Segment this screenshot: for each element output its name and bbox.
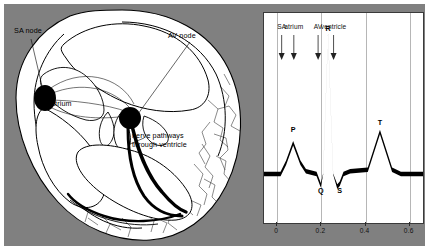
label-nerve-line2: through ventricle (132, 140, 187, 149)
label-atrium: atrium (51, 99, 72, 108)
heart-diagram-panel: SA node AV node atrium nerve pathways th… (4, 4, 252, 246)
heart-diagram-illustration (4, 4, 252, 246)
phase-arrow-head-3 (331, 53, 337, 60)
wave-label-q: Q (318, 186, 324, 195)
wave-label-s: S (337, 186, 342, 195)
phase-label-atrium: atrium (284, 23, 303, 30)
label-av-node: AV node (168, 31, 196, 40)
wave-label-r: R (325, 24, 330, 33)
x-tick-label-3: 0.6 (404, 227, 414, 234)
x-tick-mark-3 (409, 222, 410, 226)
label-sa-node: SA node (14, 26, 42, 35)
x-tick-mark-0 (276, 222, 277, 226)
wave-label-t: T (378, 118, 382, 127)
label-nerve-pathways: nerve pathways through ventricle (132, 131, 187, 149)
ecg-waveform (264, 34, 423, 189)
phase-arrow-head-1 (291, 53, 297, 60)
x-tick-label-2: 0.4 (360, 227, 370, 234)
x-tick-mark-1 (320, 222, 321, 226)
ecg-chart-panel: SAatriumAVventriclePQRST 00.20.40.6 (252, 4, 425, 246)
ecg-plot-area: SAatriumAVventriclePQRST (263, 12, 424, 224)
phase-arrow-head-2 (315, 53, 321, 60)
x-tick-label-0: 0 (274, 227, 278, 234)
wave-label-p: P (291, 125, 296, 134)
label-nerve-line1: nerve pathways (132, 131, 184, 140)
ecg-heart-figure: SA node AV node atrium nerve pathways th… (0, 0, 429, 250)
x-tick-label-1: 0.2 (316, 227, 326, 234)
av-node-marker (119, 107, 141, 129)
x-tick-mark-2 (365, 222, 366, 226)
ecg-trace-svg (264, 13, 423, 223)
phase-arrow-head-0 (279, 53, 285, 60)
figure-inner-frame: SA node AV node atrium nerve pathways th… (4, 4, 425, 246)
